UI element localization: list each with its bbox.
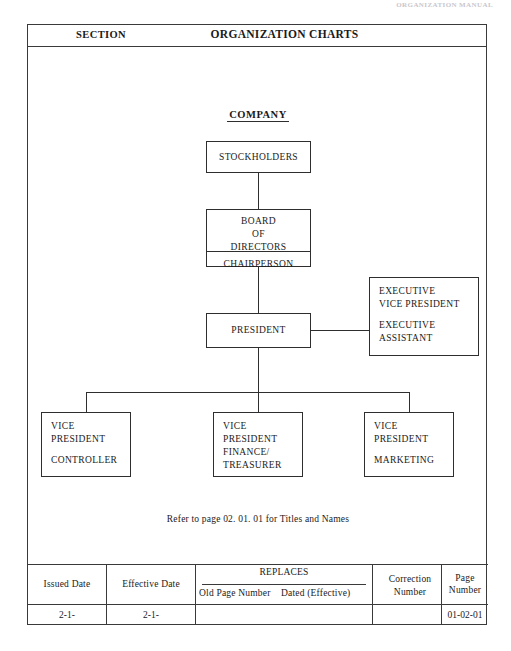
footer-correction-number-label-line-1: Correction xyxy=(389,574,432,584)
footer-effective-date-value: 2-1- xyxy=(107,605,195,625)
footer-issued-date-value: 2-1- xyxy=(28,605,106,625)
page-title: ORGANIZATION CHARTS xyxy=(83,28,486,40)
chart-root-label-text: COMPANY xyxy=(227,109,289,122)
footer-page-number-value: 01-02-01 xyxy=(442,605,488,625)
node-executive-vp-line-2: VICE PRESIDENT xyxy=(379,298,478,311)
document-page-frame: SECTION ORGANIZATION CHARTS COMPANY STOC… xyxy=(27,24,487,625)
connector-board-president xyxy=(258,267,259,313)
node-vp-finance-line-2: PRESIDENT xyxy=(223,433,302,446)
scanned-page-header: ORGANIZATION MANUAL xyxy=(396,1,493,9)
node-stockholders-label: STOCKHOLDERS xyxy=(219,151,298,164)
connector-president-down xyxy=(258,348,259,393)
footer-cell-page-number-header: Page Number xyxy=(442,565,488,603)
node-board-line-2: OF xyxy=(207,228,310,241)
node-vp-finance-line-3: FINANCE/ xyxy=(223,446,302,459)
node-board-divider xyxy=(207,251,310,252)
chart-root-label: COMPANY xyxy=(28,109,488,120)
footer-old-page-number-header: Old Page Number xyxy=(199,588,289,598)
document-footer-table: Issued Date 2-1- Effective Date 2-1- REP… xyxy=(28,564,488,624)
node-executive-vice-president: EXECUTIVE VICE PRESIDENT EXECUTIVE ASSIS… xyxy=(369,277,479,356)
node-stockholders: STOCKHOLDERS xyxy=(206,141,311,173)
footer-correction-number-value xyxy=(373,605,441,625)
footer-page-number-label: Page Number xyxy=(442,565,488,603)
node-executive-vp-line-1: EXECUTIVE xyxy=(379,285,478,298)
node-vp-controller-line-2: PRESIDENT xyxy=(51,433,130,446)
connector-bus-to-vp-controller xyxy=(86,392,87,412)
node-vice-president-finance-treasurer: VICE PRESIDENT FINANCE/ TREASURER xyxy=(213,412,303,477)
connector-bus-to-vp-finance xyxy=(258,392,259,412)
connector-president-executive-vp xyxy=(311,330,369,331)
node-president: PRESIDENT xyxy=(206,313,311,348)
node-vp-marketing-spacer xyxy=(374,446,453,454)
node-vp-marketing-line-3: MARKETING xyxy=(374,454,453,467)
node-vp-finance-line-1: VICE xyxy=(223,420,302,433)
node-vp-controller-spacer xyxy=(51,446,130,454)
node-executive-assistant-line-1: EXECUTIVE xyxy=(379,319,478,332)
footer-effective-date-label: Effective Date xyxy=(107,565,195,603)
footer-replaces-underline xyxy=(202,584,366,585)
footer-dated-effective-value xyxy=(284,605,372,625)
node-vice-president-controller: VICE PRESIDENT CONTROLLER xyxy=(41,412,131,477)
node-executive-vp-spacer xyxy=(379,311,478,319)
connector-stockholders-board xyxy=(258,173,259,209)
node-vp-finance-line-4: TREASURER xyxy=(223,459,302,472)
footer-dated-effective-header: Dated (Effective) xyxy=(281,588,376,598)
footer-cell-effective-date-header: Effective Date xyxy=(107,565,195,603)
node-vp-controller-line-3: CONTROLLER xyxy=(51,454,130,467)
node-vp-marketing-line-2: PRESIDENT xyxy=(374,433,453,446)
chart-footnote: Refer to page 02. 01. 01 for Titles and … xyxy=(28,514,488,524)
connector-bus-to-vp-marketing xyxy=(409,392,410,412)
footer-replaces-group-header: REPLACES xyxy=(196,567,372,577)
node-vp-controller-line-1: VICE xyxy=(51,420,130,433)
node-vice-president-marketing: VICE PRESIDENT MARKETING xyxy=(364,412,454,477)
footer-issued-date-label: Issued Date xyxy=(28,565,106,603)
node-president-label: PRESIDENT xyxy=(231,324,285,337)
organization-chart-area: COMPANY STOCKHOLDERS BOARD OF DIRECTORS … xyxy=(28,47,488,566)
connector-vp-bus-bar xyxy=(86,392,410,393)
document-header-row: SECTION ORGANIZATION CHARTS xyxy=(28,25,486,47)
footer-correction-number-label-line-2: Number xyxy=(394,587,426,597)
footer-old-page-number-value xyxy=(196,605,284,625)
footer-cell-issued-date-header: Issued Date xyxy=(28,565,106,603)
node-board-line-1: BOARD xyxy=(207,215,310,228)
node-board-of-directors: BOARD OF DIRECTORS CHAIRPERSON xyxy=(206,209,311,267)
node-board-line-3: DIRECTORS xyxy=(207,241,310,254)
node-vp-marketing-line-1: VICE xyxy=(374,420,453,433)
node-executive-assistant-line-2: ASSISTANT xyxy=(379,332,478,345)
